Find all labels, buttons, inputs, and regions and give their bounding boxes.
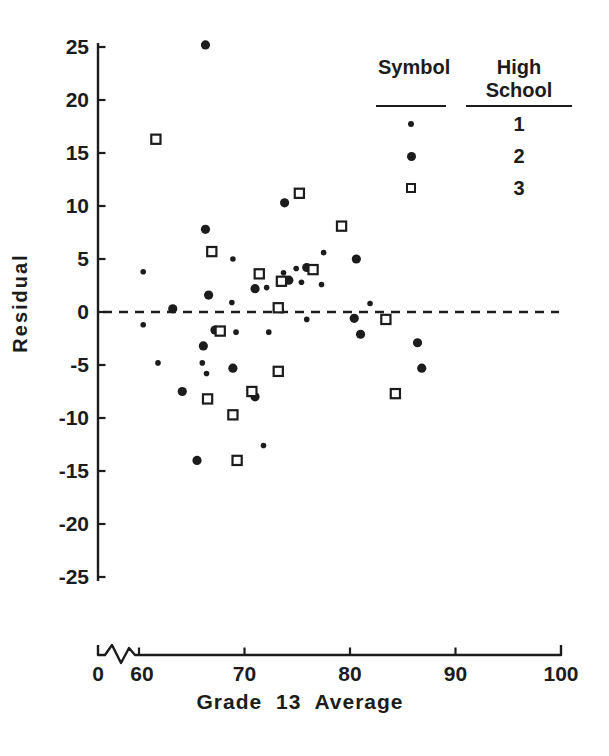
x-tick-label: 100 [543, 662, 578, 685]
point-hs2 [192, 456, 201, 465]
legend-label-hs1: 1 [466, 113, 572, 136]
point-hs1 [200, 360, 206, 366]
point-hs3 [247, 387, 256, 396]
point-hs3 [228, 410, 237, 419]
y-tick-label: -15 [59, 459, 90, 482]
x-tick-label: 0 [92, 662, 104, 685]
x-tick-label: 80 [338, 662, 361, 685]
legend-row-hs2: 2 [376, 141, 572, 171]
point-hs3 [308, 265, 317, 274]
point-hs1 [304, 317, 310, 323]
y-tick-label: -10 [59, 406, 89, 429]
point-hs1 [140, 322, 146, 328]
point-hs2 [352, 254, 361, 263]
residual-scatter-plot-figure: 2520151050-5-10-15-20-25 060708090100 Re… [0, 0, 609, 756]
point-hs1 [264, 285, 270, 291]
point-hs3 [255, 269, 264, 278]
point-hs3 [274, 303, 283, 312]
y-tick-label: 5 [77, 247, 89, 270]
point-hs2 [413, 338, 422, 347]
y-tick-label: -20 [59, 512, 89, 535]
point-hs2 [199, 341, 208, 350]
x-axis: 060708090100 [92, 645, 578, 685]
x-tick-label: 90 [444, 662, 467, 685]
point-hs2 [417, 364, 426, 373]
point-hs2 [178, 387, 187, 396]
point-hs1 [299, 280, 305, 286]
point-hs1 [321, 250, 327, 256]
point-hs2 [356, 330, 365, 339]
point-hs1 [293, 266, 299, 272]
y-tick-label: -25 [59, 565, 90, 588]
y-tick-label: 15 [66, 141, 90, 164]
y-axis-label: Residual [8, 238, 32, 368]
legend-symbol-header: Symbol [376, 56, 446, 107]
point-hs1 [281, 270, 287, 276]
point-hs3 [295, 189, 304, 198]
point-hs1 [261, 443, 267, 449]
point-hs3 [337, 222, 346, 231]
point-hs3 [151, 135, 160, 144]
y-axis: 2520151050-5-10-15-20-25 [59, 35, 106, 588]
legend-row-hs1: 1 [376, 109, 572, 139]
point-hs1 [229, 300, 235, 306]
y-tick-label: 25 [66, 35, 90, 58]
point-hs2 [201, 40, 210, 49]
y-tick-label: 20 [66, 88, 89, 111]
point-hs3 [216, 326, 225, 335]
legend: Symbol High School 1 2 3 [376, 56, 572, 203]
x-tick-label: 70 [233, 662, 256, 685]
y-tick-label: -5 [70, 353, 89, 376]
y-tick-label: 0 [77, 300, 89, 323]
point-hs2 [228, 364, 237, 373]
point-hs1 [230, 256, 236, 262]
legend-headers: Symbol High School [376, 56, 572, 107]
point-hs2 [280, 198, 289, 207]
point-hs2 [350, 314, 359, 323]
point-hs2 [250, 284, 259, 293]
point-hs1 [266, 329, 272, 335]
point-hs1 [367, 301, 373, 307]
point-hs3 [274, 367, 283, 376]
legend-high-school-header: High School [466, 56, 572, 107]
x-axis-label: Grade 13 Average [155, 690, 445, 714]
point-hs3 [391, 389, 400, 398]
point-hs3 [233, 456, 242, 465]
open-square-marker-icon [406, 183, 416, 193]
point-hs3 [277, 277, 286, 286]
point-hs1 [233, 329, 239, 335]
y-tick-label: 10 [66, 194, 89, 217]
point-hs1 [204, 371, 210, 377]
point-hs1 [140, 269, 146, 275]
legend-label-hs3: 3 [466, 177, 572, 200]
small-dot-marker-icon [408, 121, 414, 127]
point-hs3 [203, 394, 212, 403]
legend-row-hs3: 3 [376, 173, 572, 203]
legend-label-hs2: 2 [466, 145, 572, 168]
point-hs3 [381, 315, 390, 324]
point-hs2 [201, 225, 210, 234]
medium-dot-marker-icon [407, 152, 416, 161]
point-hs2 [204, 290, 213, 299]
point-hs3 [207, 247, 216, 256]
point-hs2 [168, 304, 177, 313]
point-hs1 [319, 282, 325, 288]
x-tick-label: 60 [130, 662, 153, 685]
point-hs1 [155, 360, 161, 366]
